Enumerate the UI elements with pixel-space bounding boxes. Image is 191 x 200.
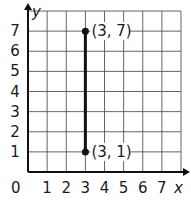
x-tick-label: 5 [119, 179, 129, 197]
data-point-dot [82, 28, 89, 35]
y-axis-arrow-icon [24, 3, 32, 10]
x-tick-label: 1 [42, 179, 52, 197]
origin-label: 0 [11, 179, 21, 197]
y-axis-label: y [31, 3, 42, 21]
coordinate-grid-chart: 12345671234567 (3, 7)(3, 1) y x 0 [0, 0, 191, 200]
x-tick-label: 7 [157, 179, 167, 197]
y-tick-label: 4 [10, 83, 20, 101]
y-tick-label: 6 [10, 42, 20, 60]
y-tick-label: 3 [10, 103, 20, 121]
x-axis-label: x [173, 179, 183, 197]
data-point-dot [82, 148, 89, 155]
point-label: (3, 1) [91, 143, 131, 161]
x-tick-label: 3 [81, 179, 91, 197]
y-tick-label: 5 [10, 62, 20, 80]
x-tick-label: 2 [61, 179, 71, 197]
y-tick-label: 1 [10, 143, 20, 161]
y-tick-label: 7 [10, 22, 20, 40]
y-tick-label: 2 [10, 123, 20, 141]
x-axis-arrow-icon [183, 168, 190, 176]
point-label: (3, 7) [91, 22, 131, 40]
x-tick-label: 4 [100, 179, 110, 197]
x-tick-label: 6 [138, 179, 148, 197]
